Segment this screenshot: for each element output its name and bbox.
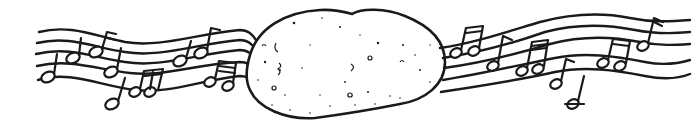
right-music-notes: [449, 18, 663, 111]
potato-music-illustration: [0, 0, 699, 133]
potato: [247, 10, 445, 118]
